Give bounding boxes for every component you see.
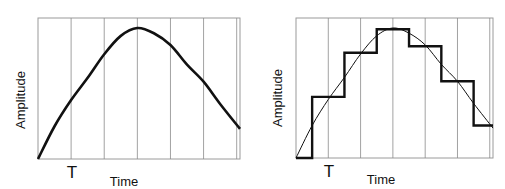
figure: Amplitude T Time Amplitude T Time [0, 0, 505, 189]
x-axis-label: Time [110, 174, 138, 189]
y-axis-label: Amplitude [13, 71, 28, 129]
sampling-interval-label: T [324, 162, 334, 181]
plot-frame [296, 18, 493, 158]
sampling-gridlines [71, 18, 237, 159]
y-axis-label: Amplitude [270, 69, 285, 127]
analog-signal-curve [38, 28, 240, 159]
sampling-figure: Amplitude T Time Amplitude T Time [0, 0, 505, 189]
analog-signal-chart: Amplitude T Time [13, 18, 240, 189]
sampling-interval-label: T [67, 163, 77, 182]
sampled-signal-chart: Amplitude T Time [270, 18, 493, 187]
analog-signal-curve [296, 28, 493, 158]
x-axis-label: Time [367, 172, 395, 187]
staircase-signal [296, 29, 493, 158]
